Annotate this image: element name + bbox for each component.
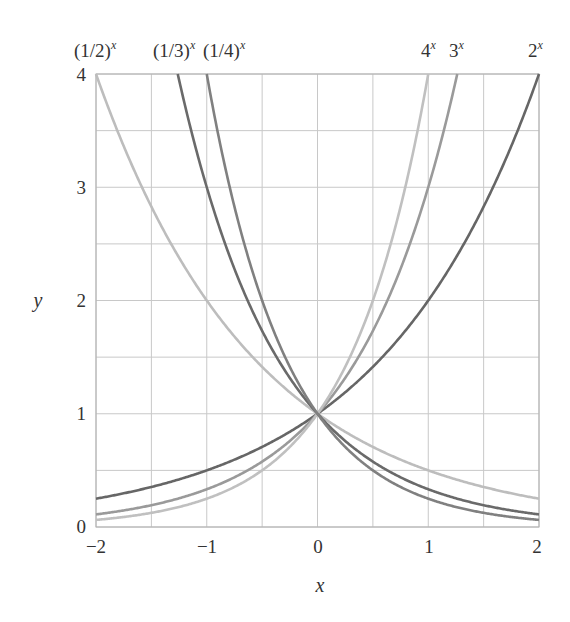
label-three-pow-x: 3x [449,38,465,61]
y-tick: 4 [77,64,87,85]
label-two-pow-x: 2x [528,38,544,61]
x-tick: 1 [424,536,434,557]
curve-3-x [96,74,457,514]
exponential-functions-chart: −2 −1 0 1 2 0 1 2 3 4 x y (1/2)x (1/3)x … [0,0,570,622]
x-tick: −1 [197,536,217,557]
x-tick: 2 [532,536,542,557]
y-tick: 2 [77,290,87,311]
curve--1-3-x [178,74,539,514]
x-axis-label: x [315,574,325,596]
x-tick: −2 [86,536,106,557]
y-tick: 3 [77,177,87,198]
y-axis-ticks: 0 1 2 3 4 [77,64,87,537]
label-third-pow-x: (1/3)x [153,38,196,62]
label-four-pow-x: 4x [421,38,437,61]
label-half-pow-x: (1/2)x [74,38,117,62]
y-tick: 0 [77,516,87,537]
y-tick: 1 [77,403,87,424]
grid-lines [96,74,539,527]
curve-labels: (1/2)x (1/3)x (1/4)x 4x 3x 2x [74,38,544,62]
y-axis-label: y [32,289,43,312]
label-quarter-pow-x: (1/4)x [203,38,246,62]
x-axis-ticks: −2 −1 0 1 2 [86,536,542,557]
x-tick: 0 [313,536,323,557]
